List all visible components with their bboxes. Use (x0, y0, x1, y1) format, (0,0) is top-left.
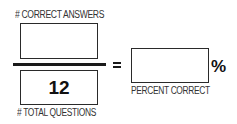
correct-answers-value (21, 24, 97, 58)
percent-correct-value (132, 49, 208, 82)
correct-answers-input-box[interactable] (20, 23, 98, 59)
percent-correct-label: PERCENT CORRECT (131, 86, 210, 96)
percent-sign-icon: % (211, 58, 226, 76)
total-questions-label: # TOTAL QUESTIONS (17, 108, 96, 118)
fraction-bar (13, 63, 106, 66)
total-questions-box: 12 (20, 70, 98, 105)
correct-answers-label: # CORRECT ANSWERS (15, 10, 104, 20)
total-questions-value: 12 (21, 71, 97, 104)
percent-correct-input-box[interactable] (131, 48, 209, 83)
equals-sign-icon (113, 62, 121, 68)
